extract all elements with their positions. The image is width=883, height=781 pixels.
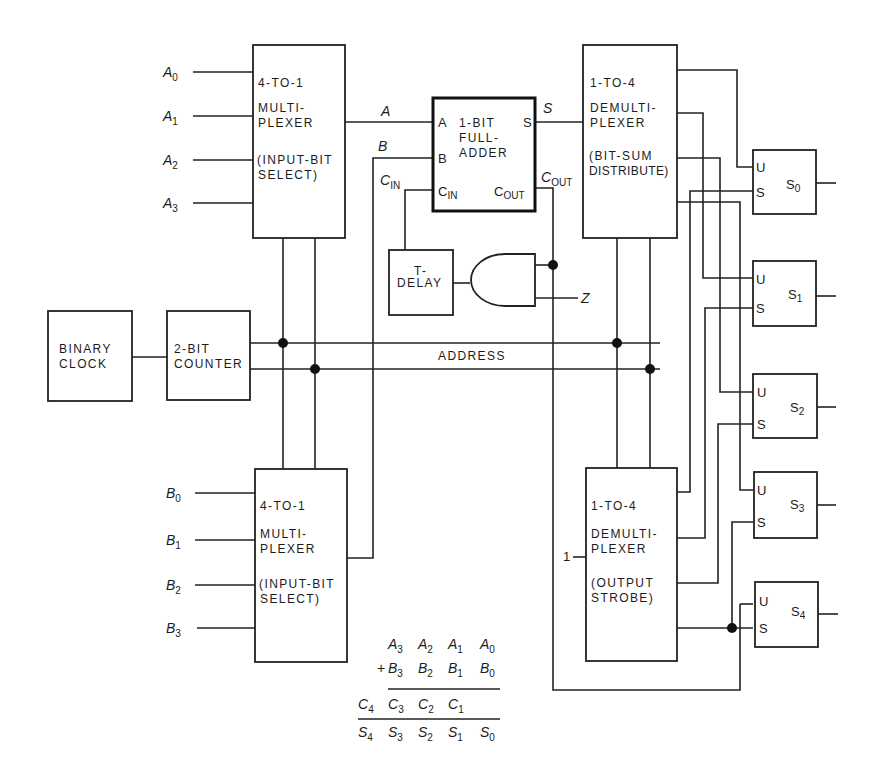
wire-sum-3 bbox=[677, 202, 753, 490]
register-pin-u: U bbox=[757, 385, 766, 400]
demux-strobe-line4: (OUTPUT bbox=[591, 576, 654, 590]
eq-c2: C2 bbox=[418, 696, 434, 715]
eq-a0: A0 bbox=[479, 636, 495, 655]
eq-plus: + bbox=[377, 660, 385, 676]
register-pin-u: U bbox=[756, 160, 765, 175]
junction-dot bbox=[727, 623, 737, 633]
mux-b-line1: 4-TO-1 bbox=[260, 499, 306, 513]
wire-sum-1 bbox=[677, 113, 753, 278]
register-pin-s: S bbox=[756, 185, 765, 200]
adder-pin-b: B bbox=[438, 151, 447, 166]
label-a1: A1 bbox=[162, 108, 178, 127]
eq-s1: S1 bbox=[448, 724, 463, 743]
full-adder-block: A B CIN S COUT 1-BIT FULL- ADDER bbox=[433, 98, 535, 211]
clock-line1: BINARY bbox=[59, 342, 112, 356]
mux-a-line1: 4-TO-1 bbox=[258, 76, 304, 90]
register-s3: U S S3 bbox=[754, 472, 817, 538]
label-b0: B0 bbox=[166, 485, 181, 504]
mux-b-line2: MULTI- bbox=[260, 527, 308, 541]
wire-strobe-3-branch bbox=[732, 522, 753, 628]
mux-b-line4: (INPUT-BIT bbox=[259, 577, 335, 591]
register-s4: U S S4 bbox=[755, 582, 818, 647]
eq-b1: B1 bbox=[448, 660, 463, 679]
demux-strobe-line5: STROBE) bbox=[591, 591, 654, 605]
eq-s4: S4 bbox=[358, 724, 373, 743]
demux-sum-line3: PLEXER bbox=[590, 116, 646, 130]
register-pin-s: S bbox=[757, 417, 766, 432]
demux-sum-line2: DEMULTI- bbox=[590, 101, 657, 115]
demux-strobe-line3: PLEXER bbox=[591, 542, 647, 556]
eq-c3: C3 bbox=[388, 696, 404, 715]
adder-block-diagram: A0 A1 A2 A3 B0 B1 B2 B3 4-TO-1 MULTI- PL… bbox=[0, 0, 883, 781]
mux-a-box bbox=[253, 45, 345, 238]
register-pin-s: S bbox=[756, 301, 765, 316]
register-pin-u: U bbox=[756, 272, 765, 287]
eq-b3: B3 bbox=[388, 660, 403, 679]
wire-label-b: B bbox=[378, 138, 387, 154]
mux-a-line3: PLEXER bbox=[258, 116, 314, 130]
demux-strobe-box bbox=[586, 468, 677, 661]
register-s2: U S S2 bbox=[753, 374, 817, 438]
mux-a-line4: (INPUT-BIT bbox=[257, 153, 333, 167]
eq-b2: B2 bbox=[418, 660, 433, 679]
mux-b-block: 4-TO-1 MULTI- PLEXER (INPUT-BIT SELECT) bbox=[255, 469, 347, 662]
eq-s2: S2 bbox=[418, 724, 433, 743]
eq-c1: C1 bbox=[448, 696, 464, 715]
label-b1: B1 bbox=[166, 532, 181, 551]
junction-dot bbox=[645, 364, 655, 374]
junction-dot bbox=[548, 260, 558, 270]
eq-a1: A1 bbox=[447, 636, 463, 655]
register-s1-box bbox=[753, 261, 816, 326]
eq-s3: S3 bbox=[388, 724, 403, 743]
mux-a-line2: MULTI- bbox=[258, 101, 306, 115]
counter-line2: COUNTER bbox=[174, 357, 243, 371]
a-input-labels: A0 A1 A2 A3 bbox=[162, 64, 178, 214]
demux-sum-line4: (BIT-SUM bbox=[589, 149, 653, 163]
demux-strobe-line1: 1-TO-4 bbox=[591, 499, 637, 513]
wire-b-to-adder bbox=[345, 158, 433, 558]
mux-b-line5: SELECT) bbox=[260, 592, 320, 606]
mux-a-block: 4-TO-1 MULTI- PLEXER (INPUT-BIT SELECT) bbox=[253, 45, 345, 238]
delay-block: T- DELAY bbox=[389, 250, 453, 315]
b-input-labels: B0 B1 B2 B3 bbox=[166, 485, 181, 639]
mux-b-box bbox=[255, 469, 347, 662]
adder-pin-a: A bbox=[438, 115, 447, 130]
wire-strobe-1 bbox=[677, 308, 753, 538]
demux-strobe-line2: DEMULTI- bbox=[591, 527, 658, 541]
addition-equation: A3 A2 A1 A0 + B3 B2 B1 B0 C4 C3 C2 C1 S4… bbox=[358, 636, 500, 743]
register-pin-u: U bbox=[757, 483, 766, 498]
demux-sum-line1: 1-TO-4 bbox=[590, 76, 636, 90]
junction-dot bbox=[612, 338, 622, 348]
register-pin-s: S bbox=[757, 515, 766, 530]
wire-label-z: Z bbox=[580, 290, 590, 306]
eq-c4: C4 bbox=[358, 696, 374, 715]
wire-label-a: A bbox=[380, 103, 390, 119]
adder-line2: FULL- bbox=[459, 131, 499, 145]
register-pin-u: U bbox=[759, 594, 768, 609]
address-bus-label: ADDRESS bbox=[438, 349, 506, 363]
label-b3: B3 bbox=[166, 620, 181, 639]
clock-block: BINARY CLOCK bbox=[48, 311, 132, 401]
wire-sum-2 bbox=[677, 158, 753, 392]
wire-strobe-0 bbox=[677, 191, 753, 492]
eq-b0: B0 bbox=[480, 660, 495, 679]
demux-sum-line5: DISTRIBUTE) bbox=[589, 164, 669, 178]
and-gate-icon bbox=[471, 254, 535, 306]
wire-sum-0 bbox=[677, 70, 753, 167]
label-a2: A2 bbox=[162, 152, 178, 171]
strobe-enable-label: 1 bbox=[563, 549, 570, 564]
register-s0: U S S0 bbox=[753, 150, 816, 214]
counter-line1: 2-BIT bbox=[174, 342, 210, 356]
counter-block: 2-BIT COUNTER bbox=[167, 311, 250, 400]
register-s4-box bbox=[755, 582, 818, 647]
label-a3: A3 bbox=[162, 195, 178, 214]
junction-dot bbox=[310, 364, 320, 374]
adder-line3: ADDER bbox=[459, 146, 508, 160]
mux-b-line3: PLEXER bbox=[260, 542, 316, 556]
eq-a3: A3 bbox=[387, 636, 403, 655]
junction-dot bbox=[278, 338, 288, 348]
register-pin-s: S bbox=[759, 621, 768, 636]
eq-a2: A2 bbox=[417, 636, 433, 655]
wire-label-s: S bbox=[543, 100, 553, 116]
binary-clock-box bbox=[48, 311, 132, 401]
